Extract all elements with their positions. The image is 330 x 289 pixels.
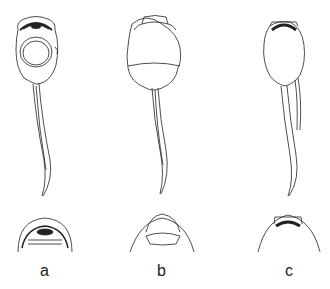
panel-label-a: a — [40, 262, 49, 280]
tadpole-b-body — [127, 16, 181, 195]
panel-label-c: c — [285, 262, 293, 280]
tadpole-c-body — [264, 22, 305, 197]
mouth-detail-b — [130, 214, 194, 252]
mouth-detail-c — [258, 215, 320, 252]
tadpole-figure: a b c — [0, 0, 330, 289]
panel-label-b: b — [157, 262, 166, 280]
tadpole-a-body — [16, 17, 58, 197]
mouth-detail-a — [18, 218, 72, 252]
